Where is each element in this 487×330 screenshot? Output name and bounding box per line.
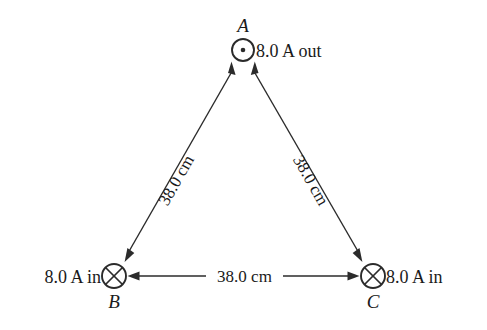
dot-icon xyxy=(241,48,246,53)
vertex-c-label: C xyxy=(367,291,380,312)
edge-bc-arrowhead-b xyxy=(128,271,140,280)
vertex-c: C 8.0 A in xyxy=(361,264,443,312)
vertex-a-label: A xyxy=(235,15,249,36)
edge-bc-arrowhead-c xyxy=(348,271,360,280)
edge-ac-length-label: 38.0 cm xyxy=(289,152,333,209)
current-carrying-wires-diagram: 38.0 cm 38.0 cm 38.0 cm A 8.0 A out B 8.… xyxy=(0,0,487,330)
vertex-a-current-label: 8.0 A out xyxy=(256,41,322,61)
edge-ac-arrowhead-c xyxy=(353,248,363,262)
vertex-c-current-label: 8.0 A in xyxy=(386,267,443,287)
edge-ab-arrowhead-b xyxy=(125,248,135,262)
edge-ab-length-label: 38.0 cm xyxy=(154,152,198,209)
edge-bc-length-label: 38.0 cm xyxy=(217,267,272,286)
vertex-b-label: B xyxy=(108,291,120,312)
edge-ab-arrowhead-a xyxy=(228,62,236,76)
edge-bc: 38.0 cm xyxy=(128,267,360,286)
edge-ac-arrowhead-a xyxy=(251,62,259,76)
vertex-b: B 8.0 A in xyxy=(44,264,126,312)
vertex-a: A 8.0 A out xyxy=(232,15,322,61)
vertex-b-current-label: 8.0 A in xyxy=(44,267,101,287)
edge-ab: 38.0 cm xyxy=(125,62,236,263)
edge-ac: 38.0 cm xyxy=(251,62,363,263)
